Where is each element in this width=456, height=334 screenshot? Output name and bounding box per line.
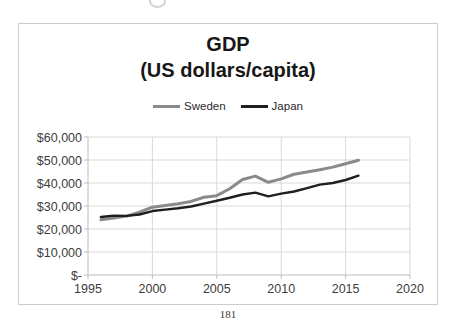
series-line-sweden	[101, 160, 359, 220]
x-axis-label: 2020	[396, 282, 424, 296]
x-axis-label: 2005	[203, 282, 231, 296]
y-axis-label: $-	[71, 269, 82, 283]
y-axis-label: $10,000	[37, 246, 82, 260]
y-axis-label: $50,000	[37, 154, 82, 168]
y-axis-label: $40,000	[37, 177, 82, 191]
x-axis-label: 2000	[138, 282, 166, 296]
y-axis-label: $30,000	[37, 200, 82, 214]
gdp-chart: GDP (US dollars/capita) Sweden Japan $-$…	[18, 23, 438, 305]
cropped-glyph-artifact	[149, 0, 166, 8]
plot-area: $-$10,000$20,000$30,000$40,000$50,000$60…	[19, 24, 437, 304]
x-axis-label: 2010	[267, 282, 295, 296]
y-axis-label: $60,000	[37, 131, 82, 145]
page: GDP (US dollars/capita) Sweden Japan $-$…	[0, 0, 456, 334]
y-axis-label: $20,000	[37, 223, 82, 237]
x-axis-label: 2015	[332, 282, 360, 296]
x-axis-label: 1995	[74, 282, 102, 296]
page-number: 181	[0, 308, 456, 320]
